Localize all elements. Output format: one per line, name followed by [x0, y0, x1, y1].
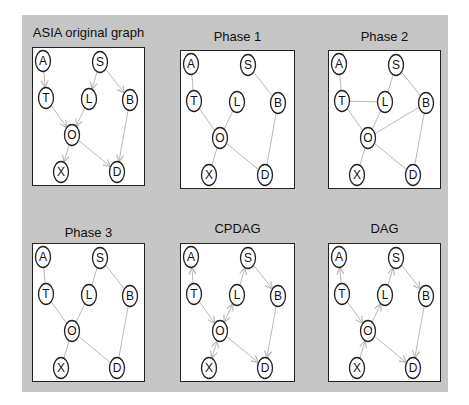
edge-S-L [92, 268, 97, 286]
graph-box: ASTLBOXD [180, 50, 295, 189]
edge-B-D [267, 306, 276, 358]
node-label: O [67, 324, 76, 338]
arrowhead-icon [60, 120, 67, 128]
edge-T-O [199, 301, 214, 323]
node-label: T [190, 94, 198, 108]
node-label: D [409, 361, 418, 375]
node-label: S [96, 55, 104, 69]
node-S: S [93, 248, 108, 269]
node-D: D [406, 358, 421, 379]
node-label: L [86, 92, 93, 106]
edge-T-O [347, 301, 362, 323]
edge-B-D [267, 113, 276, 165]
node-label: L [382, 95, 389, 109]
graph-box: ASTLBOXD [32, 243, 145, 382]
node-label: X [57, 361, 65, 375]
node-B: B [271, 286, 286, 307]
node-A: A [332, 247, 347, 268]
node-L: L [82, 285, 97, 306]
node-O: O [361, 128, 376, 149]
edge-T-O [347, 108, 362, 130]
edge-T-O [51, 301, 66, 323]
node-label: X [205, 361, 213, 375]
graph-box: ASTLBOXD [328, 243, 441, 382]
node-label: X [57, 165, 65, 179]
graph-canvas: ASTLBOXD [33, 244, 146, 383]
node-B: B [271, 93, 286, 114]
edge-O-D [374, 336, 406, 362]
node-D: D [258, 165, 273, 186]
node-A: A [184, 54, 199, 75]
edge-A-T [340, 74, 341, 90]
edge-A-T [44, 267, 45, 283]
node-label: O [363, 324, 372, 338]
node-D: D [110, 162, 125, 183]
node-A: A [36, 247, 51, 268]
edge-O-D [226, 143, 258, 169]
node-X: X [350, 358, 365, 379]
graph-box: ASTLBOXD [328, 50, 441, 189]
node-label: D [409, 168, 418, 182]
node-label: A [39, 54, 47, 68]
edge-B-D [415, 306, 424, 358]
node-label: X [353, 168, 361, 182]
edge-L-O [372, 111, 381, 129]
edge-O-X [360, 148, 365, 166]
node-S: S [241, 248, 256, 269]
edge-O-D [78, 140, 110, 166]
node-X: X [202, 358, 217, 379]
node-X: X [54, 358, 69, 379]
node-B: B [419, 93, 434, 114]
node-A: A [36, 51, 51, 72]
node-L: L [230, 285, 245, 306]
edge-L-O [224, 111, 233, 129]
edge-B-D [119, 306, 128, 358]
node-O: O [361, 321, 376, 342]
edge-T-O [199, 108, 214, 130]
panel-title: DAG [328, 221, 441, 236]
node-label: L [382, 288, 389, 302]
node-L: L [378, 92, 393, 113]
node-label: X [205, 168, 213, 182]
panel-title: Phase 1 [180, 29, 295, 44]
arrowhead-icon [356, 316, 363, 324]
node-label: T [42, 91, 50, 105]
graph-canvas: ASTLBOXD [181, 51, 296, 190]
node-label: D [113, 165, 122, 179]
node-label: S [244, 58, 252, 72]
panel-title: Phase 2 [328, 29, 441, 44]
node-T: T [39, 284, 54, 305]
graph-canvas: ASTLBOXD [329, 244, 442, 383]
node-S: S [389, 55, 404, 76]
edge-L-O [76, 304, 85, 322]
node-D: D [110, 358, 125, 379]
node-L: L [378, 285, 393, 306]
node-D: D [406, 165, 421, 186]
node-label: O [215, 131, 224, 145]
node-O: O [213, 128, 228, 149]
node-A: A [184, 247, 199, 268]
graph-canvas: ASTLBOXD [33, 48, 146, 187]
node-A: A [332, 54, 347, 75]
node-label: L [234, 95, 241, 109]
edge-O-D [374, 143, 406, 169]
node-T: T [187, 91, 202, 112]
node-label: D [261, 168, 270, 182]
node-label: S [244, 251, 252, 265]
node-label: S [392, 58, 400, 72]
node-label: A [335, 250, 343, 264]
node-L: L [230, 92, 245, 113]
edge-T-L [349, 101, 377, 102]
node-label: B [422, 289, 430, 303]
node-T: T [187, 284, 202, 305]
node-label: B [126, 289, 134, 303]
graph-box: ASTLBOXD [180, 243, 295, 382]
figure-background: ASIA original graph ASTLBOXD Phase 1 AST… [22, 15, 448, 392]
node-label: D [113, 361, 122, 375]
edge-B-D [415, 113, 424, 165]
node-X: X [202, 165, 217, 186]
edge-B-D [119, 110, 128, 162]
edge-S-B [254, 265, 273, 289]
edge-A-T [192, 74, 193, 90]
graph-box: ASTLBOXD [32, 47, 145, 186]
